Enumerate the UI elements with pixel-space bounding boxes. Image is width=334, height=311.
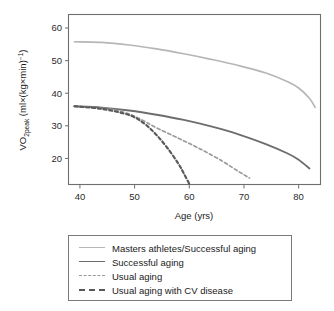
- legend-item[interactable]: Masters athletes/Successful aging: [69, 241, 291, 255]
- figure-vo2peak-vs-age: 2030405060 4050607080 Age (yrs) VO2peak …: [0, 0, 334, 311]
- legend-item[interactable]: Usual aging with CV disease: [69, 283, 291, 297]
- legend-item[interactable]: Successful aging: [69, 255, 291, 269]
- x-tick-label: 80: [293, 191, 304, 202]
- x-axis-ticks: [80, 185, 299, 189]
- chart-svg: 2030405060 4050607080 Age (yrs) VO2peak …: [0, 0, 334, 232]
- legend-item[interactable]: Usual aging: [69, 269, 291, 283]
- y-axis-title-unit: (ml×(kg×min): [17, 60, 28, 119]
- legend-label-masters-athletes: Masters athletes/Successful aging: [112, 243, 256, 254]
- y-tick-label: 50: [51, 55, 62, 66]
- x-tick-label: 50: [129, 191, 140, 202]
- y-axis-tick-labels: 2030405060: [51, 22, 62, 163]
- legend-swatch-masters-athletes: [79, 243, 105, 253]
- y-tick-label: 20: [51, 153, 62, 164]
- series-line-1: [74, 106, 309, 168]
- legend-swatch-usual-aging-cv-disease: [79, 285, 105, 295]
- x-tick-label: 60: [184, 191, 195, 202]
- y-axis-title-prefix: VO: [17, 137, 28, 151]
- legend-label-usual-aging-cv-disease: Usual aging with CV disease: [112, 285, 233, 296]
- legend-label-usual-aging: Usual aging: [112, 271, 162, 282]
- y-axis-title-subscript: 2peak: [23, 118, 31, 137]
- legend-swatch-successful-aging: [79, 257, 105, 267]
- x-tick-label: 70: [239, 191, 250, 202]
- x-axis-title: Age (yrs): [175, 210, 214, 221]
- legend-label-successful-aging: Successful aging: [112, 257, 184, 268]
- y-tick-label: 60: [51, 22, 62, 33]
- plot-frame: [69, 15, 321, 185]
- y-tick-label: 30: [51, 120, 62, 131]
- data-series-group: [74, 42, 315, 184]
- x-tick-label: 40: [75, 191, 86, 202]
- x-axis-tick-labels: 4050607080: [75, 191, 304, 202]
- plot-area: 2030405060 4050607080 Age (yrs) VO2peak …: [0, 0, 334, 232]
- chart-legend: Masters athletes/Successful aging Succes…: [68, 235, 292, 301]
- y-axis-title: VO2peak (ml×(kg×min)−1): [17, 50, 31, 151]
- svg-text:VO2peak (ml×(kg×min)−1): VO2peak (ml×(kg×min)−1): [17, 50, 31, 151]
- y-tick-label: 40: [51, 88, 62, 99]
- legend-swatch-usual-aging: [79, 271, 105, 281]
- y-axis-title-suffix: ): [17, 50, 28, 53]
- series-line-0: [74, 42, 315, 108]
